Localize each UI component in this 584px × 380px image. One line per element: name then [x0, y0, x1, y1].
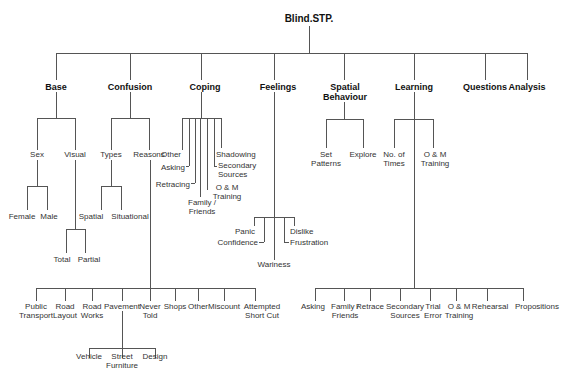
- label-line: Secondary: [386, 302, 424, 311]
- root-node-title: Blind.STP.: [285, 14, 334, 23]
- label-line: Transport: [19, 311, 53, 320]
- label-line: Times: [383, 159, 404, 168]
- label-line: O & M: [213, 183, 242, 192]
- node-no-of-times: No. of Times: [383, 150, 404, 168]
- node-pavement: Pavement: [104, 302, 140, 311]
- node-dislike: Dislike: [290, 227, 314, 236]
- node-shops: Shops: [164, 302, 187, 311]
- node-coping-shadowing: Shadowing: [216, 150, 256, 159]
- label-line: Public: [19, 302, 53, 311]
- node-learning-asking: Asking: [301, 302, 325, 311]
- node-sex: Sex: [30, 150, 44, 159]
- node-coping-retracing: Retracing: [156, 180, 190, 189]
- label-line: Training: [421, 159, 450, 168]
- node-learning-om-training-2: O & M Training: [445, 302, 474, 320]
- label-line: Furniture: [106, 361, 138, 370]
- node-other-reason: Other: [188, 302, 208, 311]
- node-frustration: Frustration: [290, 238, 328, 247]
- node-learning-propositions: Propositions: [515, 302, 559, 311]
- tree-connectors: [0, 0, 584, 380]
- node-learning-trial-error: Trial Error: [424, 302, 442, 320]
- node-wariness: Wariness: [257, 260, 290, 269]
- label-line: Training: [445, 311, 474, 320]
- label-line: Road: [53, 302, 77, 311]
- label-line: Street: [106, 352, 138, 361]
- category-spatial-behaviour-line1: Spatial: [323, 82, 367, 92]
- label-line: Family /: [331, 302, 359, 311]
- node-partial: Partial: [78, 255, 101, 264]
- node-vehicle: Vehicle: [76, 352, 102, 361]
- category-questions: Questions: [463, 82, 507, 92]
- category-spatial-behaviour: Spatial Behaviour: [323, 82, 367, 102]
- label-line: Works: [81, 311, 104, 320]
- category-base: Base: [45, 82, 67, 92]
- node-set-patterns: Set Patterns: [311, 150, 341, 168]
- label-line: Patterns: [311, 159, 341, 168]
- label-line: Friends: [188, 207, 216, 216]
- node-panic: Panic: [235, 227, 255, 236]
- node-learning-family-friends: Family / Friends: [331, 302, 359, 320]
- label-line: Trial: [424, 302, 442, 311]
- node-types: Types: [100, 150, 121, 159]
- node-spatial: Spatial: [79, 212, 103, 221]
- node-coping-asking: Asking: [161, 163, 185, 172]
- node-coping-other: Other: [161, 150, 181, 159]
- node-public-transport: Public Transport: [19, 302, 53, 320]
- label-line: Sources: [386, 311, 424, 320]
- node-design: Design: [143, 352, 168, 361]
- label-line: Set: [311, 150, 341, 159]
- category-confusion: Confusion: [108, 82, 153, 92]
- label-line: Secondary: [218, 161, 256, 170]
- label-line: Training: [213, 192, 242, 201]
- node-coping-om-training: O & M Training: [213, 183, 242, 201]
- node-situational: Situational: [111, 212, 148, 221]
- node-learning-om-training: O & M Training: [421, 150, 450, 168]
- category-analysis: Analysis: [508, 82, 545, 92]
- node-miscount: Miscount: [208, 302, 240, 311]
- label-line: Friends: [331, 311, 359, 320]
- node-street-furniture: Street Furniture: [106, 352, 138, 370]
- node-road-layout: Road Layout: [53, 302, 77, 320]
- category-learning: Learning: [395, 82, 433, 92]
- node-confidence: Confidence: [218, 238, 258, 247]
- node-visual: Visual: [64, 150, 86, 159]
- category-coping: Coping: [190, 82, 221, 92]
- label-line: Attempted: [244, 302, 280, 311]
- node-coping-secondary-sources: Secondary Sources: [218, 161, 256, 179]
- label-line: O & M: [445, 302, 474, 311]
- label-line: No. of: [383, 150, 404, 159]
- label-line: Sources: [218, 170, 256, 179]
- node-explore: Explore: [349, 150, 376, 159]
- label-line: Layout: [53, 311, 77, 320]
- category-feelings: Feelings: [260, 82, 297, 92]
- category-spatial-behaviour-line2: Behaviour: [323, 92, 367, 102]
- label-line: Error: [424, 311, 442, 320]
- node-never-told: Never Told: [139, 302, 160, 320]
- node-learning-rehearsal: Rehearsal: [472, 302, 508, 311]
- node-male: Male: [40, 212, 57, 221]
- node-total: Total: [54, 255, 71, 264]
- node-road-works: Road Works: [81, 302, 104, 320]
- node-learning-secondary-sources: Secondary Sources: [386, 302, 424, 320]
- label-line: O & M: [421, 150, 450, 159]
- label-line: Told: [139, 311, 160, 320]
- label-line: Road: [81, 302, 104, 311]
- node-learning-retrace: Retrace: [356, 302, 384, 311]
- node-attempted-short-cut: Attempted Short Cut: [244, 302, 280, 320]
- label-line: Never: [139, 302, 160, 311]
- label-line: Short Cut: [244, 311, 280, 320]
- node-female: Female: [9, 212, 36, 221]
